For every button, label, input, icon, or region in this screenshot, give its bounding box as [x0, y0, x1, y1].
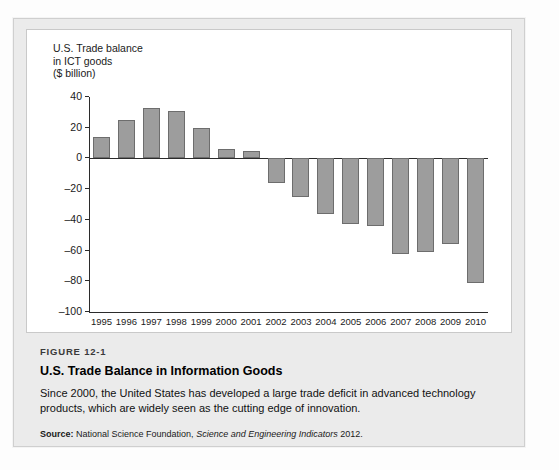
- bar-2006: [367, 158, 384, 226]
- bar-1998: [168, 111, 185, 159]
- bar-2004: [317, 158, 334, 213]
- bar-1999: [193, 128, 210, 159]
- chart-axis-title: U.S. Trade balance in ICT goods ($ billi…: [53, 42, 143, 80]
- figure-title: U.S. Trade Balance in Information Goods: [40, 364, 506, 378]
- y-axis-line: [89, 97, 90, 313]
- figure-number: FIGURE 12-1: [40, 346, 506, 357]
- x-tick-label-2003: 2003: [289, 316, 314, 327]
- y-tick-label: 40: [70, 90, 82, 102]
- bar-2005: [342, 158, 359, 224]
- y-tick-mark: [85, 188, 89, 189]
- x-tick-label-2008: 2008: [413, 316, 438, 327]
- y-tick-label: 0: [76, 151, 82, 163]
- y-tick-mark: [85, 311, 89, 312]
- x-tick-label-2001: 2001: [239, 316, 264, 327]
- source-publication: Science and Engineering Indicators: [196, 429, 338, 439]
- source-label: Source:: [40, 429, 74, 439]
- bar-1995: [93, 137, 110, 159]
- x-tick-label-1998: 1998: [164, 316, 189, 327]
- y-tick-label: –40: [64, 213, 82, 225]
- x-tick-label-2000: 2000: [214, 316, 239, 327]
- chart-panel: U.S. Trade balance in ICT goods ($ billi…: [26, 29, 512, 333]
- x-tick-label-1995: 1995: [89, 316, 114, 327]
- figure-source: Source: National Science Foundation, Sci…: [40, 428, 506, 441]
- x-tick-label-2004: 2004: [313, 316, 338, 327]
- x-tick-label-1999: 1999: [189, 316, 214, 327]
- figure-box: U.S. Trade balance in ICT goods ($ billi…: [13, 18, 525, 447]
- x-tick-label-1997: 1997: [139, 316, 164, 327]
- y-tick-label: 20: [70, 121, 82, 133]
- figure-description: Since 2000, the United States has develo…: [40, 386, 506, 416]
- y-tick-mark: [85, 219, 89, 220]
- y-tick-mark: [85, 127, 89, 128]
- x-tick-label-2006: 2006: [363, 316, 388, 327]
- y-tick-mark: [85, 157, 89, 158]
- bar-2009: [442, 158, 459, 244]
- source-year: 2012.: [340, 429, 363, 439]
- y-tick-label: –20: [64, 182, 82, 194]
- y-tick-label: –60: [64, 244, 82, 256]
- bar-2002: [268, 158, 285, 183]
- bar-2003: [292, 158, 309, 196]
- x-tick-label-1996: 1996: [114, 316, 139, 327]
- bar-2001: [243, 151, 260, 159]
- y-tick-label: –100: [59, 305, 82, 317]
- x-tick-label-2009: 2009: [438, 316, 463, 327]
- bar-2007: [392, 158, 409, 253]
- source-org: National Science Foundation,: [76, 429, 194, 439]
- page-background: U.S. Trade balance in ICT goods ($ billi…: [0, 0, 559, 470]
- x-tick-label-2002: 2002: [264, 316, 289, 327]
- y-tick-mark: [85, 280, 89, 281]
- y-tick-mark: [85, 96, 89, 97]
- figure-caption: FIGURE 12-1 U.S. Trade Balance in Inform…: [40, 346, 506, 441]
- bar-1996: [118, 120, 135, 158]
- x-tick-label-2010: 2010: [463, 316, 488, 327]
- bar-2010: [467, 158, 484, 282]
- bar-1997: [143, 108, 160, 159]
- bar-2000: [218, 149, 235, 158]
- x-tick-label-2007: 2007: [388, 316, 413, 327]
- x-tick-label-2005: 2005: [338, 316, 363, 327]
- bar-2008: [417, 158, 434, 252]
- y-tick-mark: [85, 250, 89, 251]
- y-tick-label: –80: [64, 274, 82, 286]
- x-axis-line: [89, 312, 488, 313]
